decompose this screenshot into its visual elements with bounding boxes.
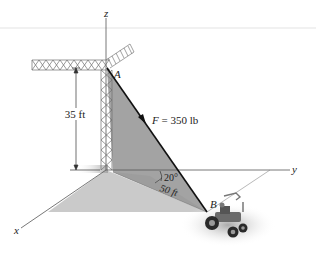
- z-axis-label: z: [103, 7, 109, 19]
- height-label: 35 ft: [65, 108, 85, 120]
- angle-label: 20°: [164, 172, 178, 183]
- y-axis-label: y: [291, 163, 297, 175]
- x-axis-label: x: [13, 224, 19, 236]
- point-B-label: B: [210, 198, 217, 210]
- force-label: F = 350 lb: [151, 114, 199, 126]
- point-A-label: A: [113, 68, 121, 80]
- crane-jib: [106, 44, 134, 68]
- statics-diagram: 35 ft z y x A B F = 350 lb 20° 50 ft: [0, 0, 316, 257]
- crane-boom: [32, 60, 110, 70]
